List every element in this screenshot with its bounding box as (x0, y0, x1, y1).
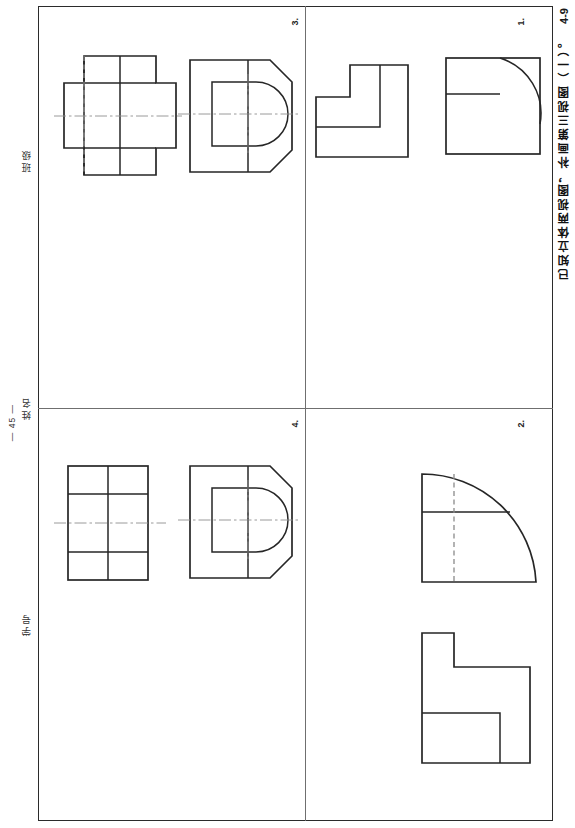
exercise-code: 4-9 (558, 8, 570, 24)
drawing-q1-square-arc (440, 52, 545, 160)
quadrant-number-1: 1. (516, 18, 526, 26)
quadrant-divider-vertical (305, 6, 306, 821)
page-title: 已知立体两视图，补画第三视图（一）。 (556, 34, 572, 280)
page-number: — 45 — (7, 404, 17, 441)
drawing-q2-quarter-round (412, 452, 542, 592)
worksheet-page: 4-9 已知立体两视图，补画第三视图（一）。 班级 姓名 学号 — 45 — 1… (0, 0, 575, 828)
drawing-q3-octagon-d-slot (182, 52, 300, 180)
field-label-name: 姓名 (20, 396, 34, 420)
drawing-q4-octagon-d-slot (182, 458, 300, 586)
quadrant-number-3: 3. (290, 18, 300, 26)
drawing-q3-cross-view (58, 48, 178, 183)
drawing-q2-stepped-profile (412, 625, 542, 770)
quadrant-number-2: 2. (516, 420, 526, 428)
field-label-student-id: 学号 (20, 612, 34, 636)
drawing-q4-gridded-rectangle (58, 458, 168, 588)
quadrant-number-4: 4. (290, 420, 300, 428)
drawing-q1-stepped-block (308, 45, 418, 165)
quadrant-divider-horizontal (38, 408, 553, 409)
field-label-class: 班级 (20, 148, 34, 172)
